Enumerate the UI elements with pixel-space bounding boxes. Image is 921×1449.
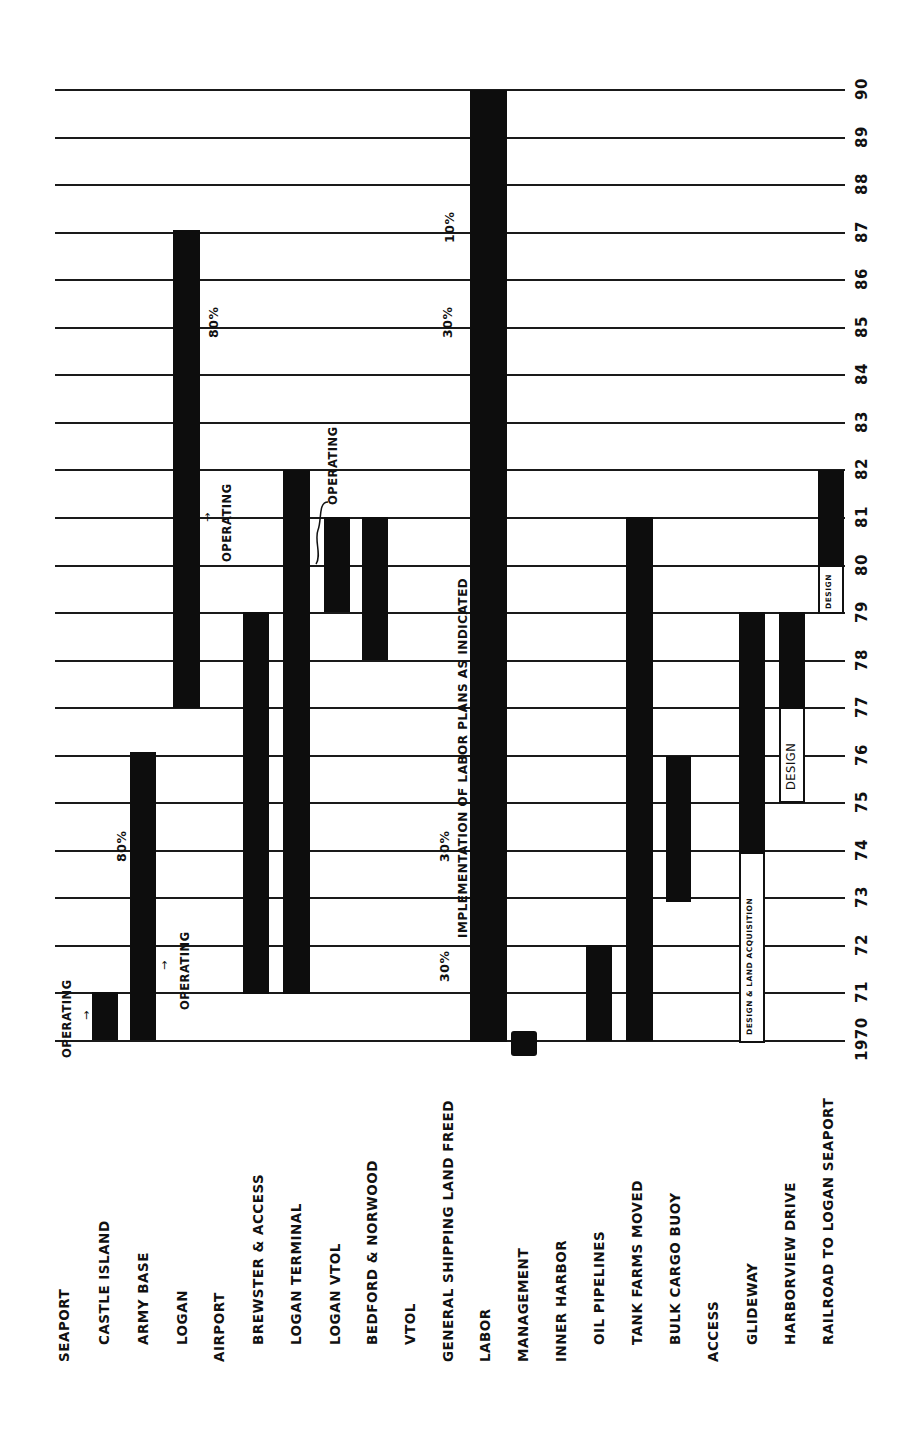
year-tick-label: 81 (853, 506, 871, 528)
gridline-89 (55, 137, 845, 139)
bar-castle-island (92, 992, 118, 1040)
label-design-railroad: DESIGN (824, 574, 833, 609)
category-label: BULK CARGO BUOY (667, 1192, 683, 1345)
year-tick-label: 86 (853, 268, 871, 290)
category-label: VTOL (402, 1303, 418, 1345)
bar-labor (470, 90, 507, 1042)
gridline-75 (55, 802, 845, 804)
category-label: MANAGEMENT (515, 1248, 531, 1362)
gridline-71 (55, 992, 845, 994)
gridline-90 (55, 89, 845, 91)
annotation-80pct-army-base: 80% (114, 831, 129, 862)
annotation-80pct-logan: 80% (206, 307, 221, 338)
gridline-76 (55, 755, 845, 757)
category-label: AIRPORT (211, 1292, 227, 1362)
category-label: SEAPORT (56, 1289, 72, 1362)
bar-glideway (739, 612, 765, 854)
annotation-operating-castle-island: OPERATING (60, 979, 74, 1058)
annotation-operating-logan: OPERATING (220, 483, 234, 562)
annotation-operating-logan-vtol: OPERATING (326, 426, 340, 505)
label-design-land-acquisition: DESIGN & LAND ACQUISITION (745, 898, 754, 1035)
year-tick-label: 75 (853, 791, 871, 813)
year-tick-label: 88 (853, 173, 871, 195)
marker-management (511, 1031, 537, 1056)
gantt-chart: 1970717273747576777879808182838485868788… (0, 0, 921, 1449)
year-tick-label: 71 (853, 981, 871, 1003)
bracket-icon-logan-vtol (312, 500, 332, 570)
annotation-30pct-1985: 30% (440, 307, 455, 338)
category-label: RAILROAD TO LOGAN SEAPORT (820, 1098, 836, 1345)
category-label: TANK FARMS MOVED (629, 1180, 645, 1345)
annotation-10pct-1987: 10% (442, 212, 457, 243)
category-label: INNER HARBOR (553, 1240, 569, 1362)
arrow-icon-army-base: → (159, 961, 170, 970)
arrow-icon-castle-island: → (81, 1011, 92, 1020)
category-label: BREWSTER & ACCESS (250, 1174, 266, 1345)
gridline-1970 (55, 1040, 845, 1042)
year-tick-label: 76 (853, 744, 871, 766)
year-tick-label: 73 (853, 886, 871, 908)
category-label: GENERAL SHIPPING LAND FREED (440, 1100, 456, 1362)
bar-bulk-cargo-buoy (666, 756, 691, 902)
category-label: LOGAN VTOL (327, 1243, 343, 1345)
gridline-72 (55, 945, 845, 947)
category-label: LOGAN (174, 1290, 190, 1345)
bar-harborview-drive (779, 612, 805, 709)
annotation-labor-plans: IMPLEMENTATION OF LABOR PLANS AS INDICAT… (456, 578, 470, 938)
annotation-30pct-1974: 30% (437, 831, 452, 862)
category-label: LABOR (477, 1308, 493, 1362)
category-label: LOGAN TERMINAL (288, 1203, 304, 1345)
year-tick-label: 85 (853, 316, 871, 338)
year-tick-label: 82 (853, 458, 871, 480)
category-label: CASTLE ISLAND (96, 1220, 112, 1345)
annotation-operating-army-base: OPERATING (178, 931, 192, 1010)
bar-bedford-norwood (362, 517, 388, 660)
bar-brewster-access (243, 612, 269, 994)
bar-oil-pipelines (586, 945, 612, 1041)
year-tick-label: 80 (853, 554, 871, 576)
bar-railroad (818, 470, 844, 567)
bar-tank-farms-moved (626, 517, 653, 1041)
category-label: HARBORVIEW DRIVE (782, 1182, 798, 1345)
year-tick-label: 83 (853, 411, 871, 433)
year-tick-label: 77 (853, 696, 871, 718)
year-tick-label: 84 (853, 363, 871, 385)
category-label: OIL PIPELINES (591, 1231, 607, 1345)
year-tick-label: 78 (853, 649, 871, 671)
arrow-icon-logan: → (202, 513, 213, 522)
bar-army-base (130, 752, 156, 1040)
bar-logan-terminal (283, 470, 310, 994)
year-tick-label: 72 (853, 934, 871, 956)
bar-logan (173, 230, 200, 708)
year-tick-label: 1970 (853, 1017, 871, 1061)
annotation-30pct-1971: 30% (437, 951, 452, 982)
label-design-harborview: DESIGN (784, 743, 798, 790)
year-tick-label: 90 (853, 78, 871, 100)
gridline-73 (55, 897, 845, 899)
year-tick-label: 79 (853, 601, 871, 623)
year-tick-label: 87 (853, 221, 871, 243)
category-label: GLIDEWAY (744, 1263, 760, 1345)
gridline-88 (55, 184, 845, 186)
year-tick-label: 74 (853, 839, 871, 861)
category-label: ARMY BASE (135, 1252, 151, 1345)
category-label: ACCESS (705, 1301, 721, 1362)
year-tick-label: 89 (853, 126, 871, 148)
category-label: BEDFORD & NORWOOD (364, 1160, 380, 1345)
